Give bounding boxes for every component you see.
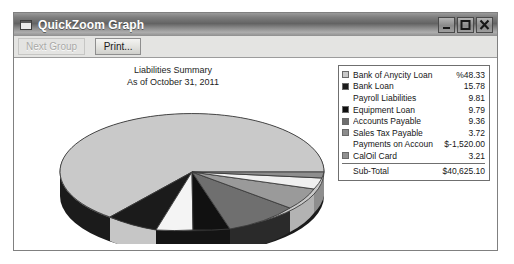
legend-item[interactable]: CalOil Card 3.21	[342, 150, 485, 162]
maximize-button[interactable]	[457, 17, 474, 33]
legend-value: 9.81	[468, 93, 485, 103]
legend-swatch	[342, 152, 349, 159]
legend-swatch	[342, 141, 349, 148]
legend-swatch	[342, 106, 349, 113]
legend-swatch	[342, 94, 349, 101]
window-controls	[438, 17, 493, 33]
screen: QuickZoom Graph	[0, 0, 514, 264]
legend-value: 3.21	[468, 151, 485, 161]
legend-label: Bank of Anycity Loan	[353, 70, 452, 80]
next-group-button[interactable]: Next Group	[18, 38, 85, 55]
legend-label: Equipment Loan	[353, 105, 464, 115]
chart-legend: Bank of Anycity Loan %48.33 Bank Loan 15…	[338, 65, 490, 181]
legend-label: Sales Tax Payable	[353, 128, 464, 138]
legend-item[interactable]: Bank Loan 15.78	[342, 81, 485, 93]
legend-value: 9.79	[468, 105, 485, 115]
legend-item[interactable]: Accounts Payable 9.36	[342, 115, 485, 127]
quickzoom-graph-window: QuickZoom Graph	[13, 12, 498, 251]
legend-item[interactable]: Bank of Anycity Loan %48.33	[342, 69, 485, 81]
chart-subtitle: As of October 31, 2011	[14, 76, 332, 88]
legend-subtotal-row: Sub-Total $40,625.10	[342, 163, 485, 177]
legend-label: Bank Loan	[353, 81, 460, 91]
legend-item[interactable]: Equipment Loan 9.79	[342, 104, 485, 116]
legend-value: %48.33	[456, 70, 485, 80]
chart-title-block: Liabilities Summary As of October 31, 20…	[14, 64, 332, 88]
legend-value: 9.36	[468, 116, 485, 126]
legend-swatch	[342, 71, 349, 78]
legend-swatch	[342, 118, 349, 125]
toolbar: Next Group Print...	[14, 36, 497, 58]
legend-item[interactable]: Sales Tax Payable 3.72	[342, 127, 485, 139]
legend-item[interactable]: Payroll Liabilities 9.81	[342, 92, 485, 104]
pie-chart[interactable]	[52, 104, 332, 244]
legend-label: Accounts Payable	[353, 116, 464, 126]
legend-label: Payments on Accoun	[353, 139, 440, 149]
legend-swatch	[342, 83, 349, 90]
title-bar[interactable]: QuickZoom Graph	[14, 13, 497, 36]
chart-title: Liabilities Summary	[14, 64, 332, 76]
window-title: QuickZoom Graph	[38, 18, 144, 32]
legend-value: 15.78	[464, 81, 485, 91]
legend-item[interactable]: Payments on Accoun $-1,520.00	[342, 139, 485, 151]
minimize-button[interactable]	[438, 17, 455, 33]
close-button[interactable]	[476, 17, 493, 33]
legend-label: CalOil Card	[353, 151, 464, 161]
legend-label: Payroll Liabilities	[353, 93, 464, 103]
legend-swatch	[342, 129, 349, 136]
legend-subtotal-label: Sub-Total	[342, 166, 438, 176]
legend-value: $-1,520.00	[444, 139, 485, 149]
legend-subtotal-value: $40,625.10	[442, 166, 485, 176]
print-button[interactable]: Print...	[95, 38, 141, 55]
window-icon	[20, 20, 32, 30]
graph-client-area: Liabilities Summary As of October 31, 20…	[14, 58, 497, 250]
legend-value: 3.72	[468, 128, 485, 138]
